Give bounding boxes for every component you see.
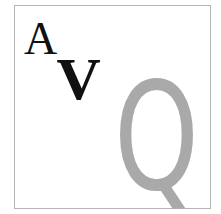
letter-v: V: [57, 49, 101, 109]
letter-q: Q: [114, 62, 199, 212]
letter-a: A: [24, 16, 57, 62]
